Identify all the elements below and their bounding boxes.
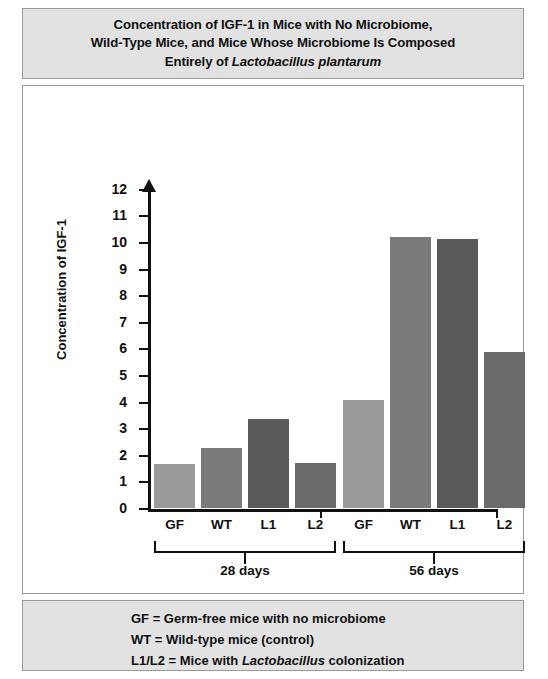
x-tick-label-l2-1: L2 — [484, 517, 525, 532]
bar-l2-56-days — [484, 352, 525, 508]
legend-item-l1l2: L1/L2 = Mice with Lactobacillus coloniza… — [23, 650, 523, 671]
bracket-56-days — [343, 541, 525, 553]
x-tick-label-gf-1: GF — [343, 517, 384, 532]
bar-gf-28-days — [154, 464, 195, 508]
chart-title-band: Concentration of IGF-1 in Mice with No M… — [22, 8, 524, 79]
legend-item-wt: WT = Wild-type mice (control) — [23, 629, 523, 650]
x-tick-label-gf-0: GF — [154, 517, 195, 532]
bar-gf-56-days — [343, 400, 384, 508]
x-tick-label-l1-1: L1 — [437, 517, 478, 532]
bar-l1-28-days — [248, 419, 289, 508]
x-tick-label-l1-0: L1 — [248, 517, 289, 532]
bracket-28-days — [154, 541, 336, 553]
bar-l2-28-days — [295, 463, 336, 508]
x-tick-label-l2-0: L2 — [295, 517, 336, 532]
legend-l1l2-suffix: colonization — [325, 653, 404, 668]
bar-wt-56-days — [390, 237, 431, 508]
group-label-56-days: 56 days — [343, 563, 525, 578]
bar-wt-28-days — [201, 448, 242, 508]
plot-area: Concentration of IGF-1 1211109876543210 … — [22, 85, 524, 594]
figure-container: Concentration of IGF-1 in Mice with No M… — [0, 0, 548, 679]
title-line-3-species: Lactobacillus plantarum — [232, 54, 381, 69]
page-title: Concentration of IGF-1 in Mice with No M… — [81, 16, 465, 71]
legend-l1l2-species: Lactobacillus — [242, 653, 325, 668]
legend-band: GF = Germ-free mice with no microbiome W… — [22, 600, 524, 671]
bar-l1-56-days — [437, 239, 478, 508]
legend-l1l2-prefix: L1/L2 = Mice with — [131, 653, 242, 668]
x-tick-label-wt-0: WT — [201, 517, 242, 532]
group-label-28-days: 28 days — [154, 563, 336, 578]
legend-item-gf: GF = Germ-free mice with no microbiome — [23, 608, 523, 629]
x-tick-label-wt-1: WT — [390, 517, 431, 532]
title-line-3-prefix: Entirely of — [165, 54, 232, 69]
title-line-2: Wild-Type Mice, and Mice Whose Microbiom… — [91, 35, 455, 50]
title-line-1: Concentration of IGF-1 in Mice with No M… — [114, 17, 433, 32]
